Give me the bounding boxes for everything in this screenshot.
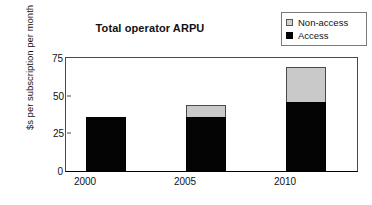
y-tick-75: 75: [52, 53, 66, 64]
bar-group-2000: [86, 117, 126, 171]
y-tick-label-0: 0: [57, 166, 66, 177]
y-axis-title: $s per subscription per month: [24, 0, 35, 143]
bar-group-2005: [186, 105, 226, 171]
x-axis-label-2010: 2010: [255, 176, 315, 187]
chart-title: Total operator ARPU: [0, 22, 300, 34]
x-axis-label-2005: 2005: [155, 176, 215, 187]
legend-swatch-access-icon: [286, 32, 293, 39]
legend-item-access: Access: [286, 29, 362, 42]
bar-segment-non-access-2010: [286, 67, 326, 102]
y-tick-label-75: 75: [52, 53, 66, 64]
bar-segment-access-2000: [86, 117, 126, 171]
y-tick-50: 50: [53, 90, 66, 101]
y-tick-25: 25: [53, 128, 66, 139]
bar-group-2010: [286, 67, 326, 171]
legend-item-non-access: Non-access: [286, 16, 362, 29]
bar-segment-access-2010: [286, 102, 326, 171]
bar-segment-access-2005: [186, 117, 226, 171]
plot-area: 75 50 25 0: [65, 57, 358, 172]
y-tick-0: 0: [57, 166, 66, 177]
chart-container: Total operator ARPU Non-access Access $s…: [0, 0, 372, 205]
x-axis-label-2000: 2000: [55, 176, 115, 187]
y-tick-label-25: 25: [53, 128, 67, 139]
legend-swatch-non-access-icon: [286, 19, 293, 26]
legend-label-access: Access: [298, 30, 329, 41]
legend-label-non-access: Non-access: [298, 17, 348, 28]
y-tick-label-50: 50: [53, 90, 67, 101]
bars-layer: [66, 58, 357, 171]
chart-legend: Non-access Access: [281, 12, 367, 46]
bar-segment-non-access-2005: [186, 105, 226, 117]
